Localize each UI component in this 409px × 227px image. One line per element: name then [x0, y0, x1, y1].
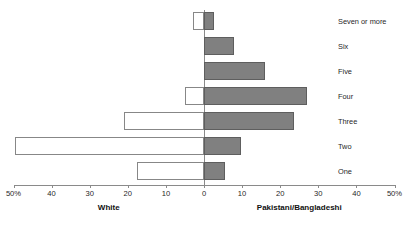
x-axis-tick-label: 40: [352, 189, 360, 198]
x-axis-tick: [395, 185, 396, 188]
diverging-bar-chart: Seven or moreSixFiveFourThreeTwoOne50%40…: [0, 0, 409, 227]
x-axis-tick-label: 30: [314, 189, 322, 198]
x-axis-tick: [356, 185, 357, 188]
x-axis-tick-label: 0: [202, 189, 206, 198]
x-axis-tick-label: 10: [162, 189, 170, 198]
bar-pakistani-bangladeshi: [204, 87, 307, 105]
x-axis-tick: [204, 185, 205, 188]
bar-pakistani-bangladeshi: [204, 62, 265, 80]
x-axis-tick-label: 50%: [387, 189, 402, 198]
bar-pakistani-bangladeshi: [204, 162, 225, 180]
bar-white: [193, 12, 204, 30]
x-axis-tick: [280, 185, 281, 188]
x-axis-tick: [14, 185, 15, 188]
x-axis-tick: [242, 185, 243, 188]
bar-pakistani-bangladeshi: [204, 37, 234, 55]
bar-white: [15, 137, 204, 155]
category-label: Seven or more: [338, 17, 386, 26]
x-axis-tick: [52, 185, 53, 188]
bar-pakistani-bangladeshi: [204, 112, 294, 130]
bar-white: [137, 162, 204, 180]
category-label: Six: [338, 42, 348, 51]
group-title-white: White: [98, 203, 120, 213]
x-axis-tick-label: 10: [238, 189, 246, 198]
x-axis-tick: [318, 185, 319, 188]
category-label: One: [338, 167, 352, 176]
category-label: Two: [338, 142, 352, 151]
category-label: Four: [338, 92, 353, 101]
bar-white: [185, 87, 204, 105]
category-label: Five: [338, 67, 352, 76]
x-axis-tick-label: 30: [85, 189, 93, 198]
x-axis-tick-label: 40: [47, 189, 55, 198]
x-axis-tick-label: 50%: [6, 189, 21, 198]
x-axis-tick: [90, 185, 91, 188]
group-title-pakistani-bangladeshi: Pakistani/Bangladeshi: [257, 203, 342, 213]
category-label: Three: [338, 117, 357, 126]
x-axis-tick: [166, 185, 167, 188]
bar-pakistani-bangladeshi: [204, 12, 214, 30]
x-axis-tick: [128, 185, 129, 188]
x-axis-tick-label: 20: [276, 189, 284, 198]
x-axis-tick-label: 20: [124, 189, 132, 198]
bar-white: [124, 112, 204, 130]
bar-pakistani-bangladeshi: [204, 137, 241, 155]
